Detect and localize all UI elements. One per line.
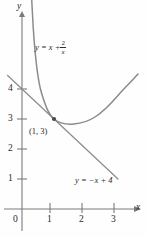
y-axis-label: y xyxy=(17,2,21,12)
x-tick-label-2: 2 xyxy=(79,215,84,225)
intersection-point-label: (1, 3) xyxy=(29,127,47,136)
x-axis-label: x xyxy=(136,203,140,213)
fraction-numerator: 2 xyxy=(60,40,66,47)
line-equation-label: y = −x + 4 xyxy=(75,176,113,185)
x-tick-label-1: 1 xyxy=(47,215,52,225)
x-tick-label-3: 3 xyxy=(111,215,116,225)
fraction-denominator: x xyxy=(60,49,66,56)
curve-equation-label: y = x +2x xyxy=(35,40,66,56)
origin-tick-label: 0 xyxy=(13,215,18,225)
curve-equation-lead: y = x + xyxy=(35,42,60,52)
plot-canvas xyxy=(0,0,146,237)
intersection-point-dot xyxy=(52,117,56,121)
y-tick-label-2: 2 xyxy=(8,144,13,154)
y-tick-label-1: 1 xyxy=(8,174,13,184)
y-tick-label-3: 3 xyxy=(8,114,13,124)
curve-hyperbola-path xyxy=(31,0,138,124)
fraction-two-over-x: 2x xyxy=(60,40,66,56)
y-tick-label-4: 4 xyxy=(8,84,13,94)
line-path xyxy=(8,76,118,180)
graph-figure: y x 0 1 2 3 1 2 3 4 y = x +2x (1, 3) y =… xyxy=(0,0,146,237)
y-axis-arrow-icon xyxy=(19,11,25,17)
